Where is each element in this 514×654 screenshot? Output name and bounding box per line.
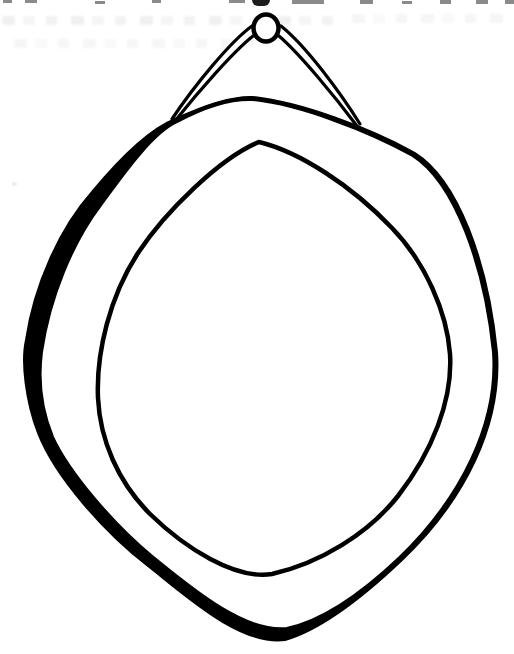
nail-head	[254, 15, 279, 42]
scanned-illustration-page: Hanging oval mirror — black-and-white li…	[0, 0, 514, 654]
mirror-drawing: Hanging oval mirror — black-and-white li…	[0, 0, 514, 654]
